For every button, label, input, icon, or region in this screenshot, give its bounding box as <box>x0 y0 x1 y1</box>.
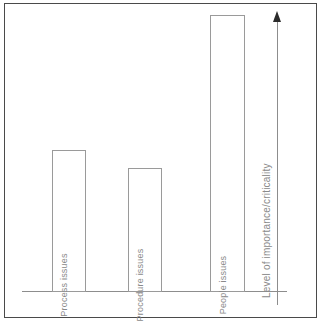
bar-people-issues: People issues <box>210 15 245 292</box>
up-arrow-icon <box>273 11 281 22</box>
bar-procedure-issues: Procedure issues <box>128 168 162 292</box>
chart-screenshot: Process issues Procedure issues People i… <box>0 0 322 325</box>
bar-label-process-issues: Process issues <box>60 253 69 316</box>
value-axis-title: Level of importance/criticality <box>262 163 272 298</box>
plot-area: Process issues Procedure issues People i… <box>0 0 322 325</box>
value-axis-line <box>277 18 278 305</box>
bar-label-people-issues: People issues <box>219 256 228 315</box>
bar-process-issues: Process issues <box>52 150 86 292</box>
bar-label-procedure-issues: Procedure issues <box>136 249 145 322</box>
